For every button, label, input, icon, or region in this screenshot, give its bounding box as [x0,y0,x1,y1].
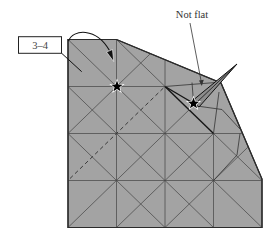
origami-diagram: 3–4 Not flat [0,0,279,240]
annotation-text: Not flat [176,9,208,20]
label-text: 3–4 [32,40,49,51]
